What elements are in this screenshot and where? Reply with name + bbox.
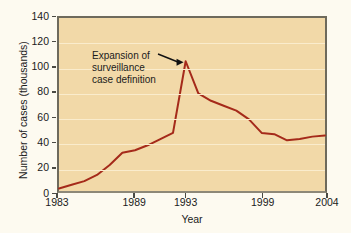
- annotation-arrow: [0, 0, 351, 233]
- chart-figure: 020406080100120140 19831989199319992004 …: [0, 0, 351, 233]
